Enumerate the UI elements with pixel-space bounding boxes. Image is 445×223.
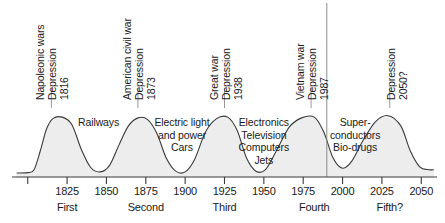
innovation-label: Railways [54,116,144,129]
peak-event-year-label: 1816 [59,77,71,100]
peak-event-depression-label: Depression [221,48,233,100]
innovation-label-line: Electronics [219,116,309,129]
innovation-label-line: Television [219,129,309,142]
wave-name-label: Fourth [279,201,349,213]
innovation-label-line: Jets [219,154,309,167]
peak-event-war-label: Great war [209,55,221,100]
peak-event-year-label: 1938 [233,77,245,100]
innovation-label-line: Electric light [137,116,227,129]
innovation-label-line: conductors [310,129,400,142]
wave-name-label: Second [111,201,181,213]
innovation-label-line: and power [137,129,227,142]
innovation-label-line: Super- [310,116,400,129]
innovation-label-line: Bio-drugs [310,141,400,154]
peak-event-depression-label: Depression [386,48,398,100]
innovation-label: Super-conductorsBio-drugs [310,116,400,154]
x-axis-ticks [28,177,422,184]
peak-event-depression-label: Depression [307,48,319,100]
innovation-label-line: Cars [137,141,227,154]
innovation-label-line: Railways [54,116,144,129]
peak-event-war-label: Vietnam war [295,43,307,100]
peak-event-year-label: 2050? [398,72,410,100]
x-axis-tick-label: 2050 [396,185,445,197]
innovation-label-line: Computers [219,141,309,154]
peak-event-year-label: 1987 [319,77,331,100]
wave-name-label: First [32,201,102,213]
peak-event-depression-label: Depression [134,48,146,100]
innovation-label: ElectronicsTelevisionComputersJets [219,116,309,166]
peak-event-year-label: 1873 [146,77,158,100]
x-axis [12,177,437,184]
wave-name-label: Third [190,201,260,213]
innovation-label: Electric lightand powerCars [137,116,227,154]
peak-event-war-label: American civil war [122,18,134,100]
kondratiev-wave-chart: Napoleonic warsDepression1816American ci… [0,0,445,223]
wave-name-label: Fifth? [355,201,425,213]
